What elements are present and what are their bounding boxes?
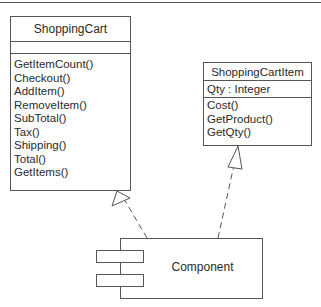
component-box[interactable]: Component (120, 238, 263, 299)
component-port-icon (96, 250, 144, 263)
class-box-shopping-cart[interactable]: ShoppingCart GetItemCount() Checkout() A… (10, 16, 131, 191)
hollow-triangle-arrowhead-icon (112, 191, 130, 206)
attributes-section (11, 42, 130, 54)
class-name: ShoppingCartItem (204, 65, 311, 79)
class-box-shopping-cart-item[interactable]: ShoppingCartItem Qty : Integer Cost() Ge… (203, 62, 312, 146)
attribute: Qty : Integer (204, 83, 311, 97)
method: GetItemCount() (11, 58, 130, 72)
class-name-section: ShoppingCartItem (204, 63, 311, 81)
method: Shipping() (11, 139, 130, 153)
method: RemoveItem() (11, 99, 130, 113)
method: GetItems() (11, 166, 130, 180)
attributes-section: Qty : Integer (204, 81, 311, 98)
method: Total() (11, 153, 130, 167)
component-port-icon (96, 274, 144, 287)
top-border-line (0, 2, 321, 3)
class-name: ShoppingCart (11, 22, 130, 36)
method: GetQty() (204, 126, 311, 140)
methods-section: GetItemCount() Checkout() AddItem() Remo… (11, 54, 130, 180)
method: SubTotal() (11, 112, 130, 126)
hollow-triangle-arrowhead-icon (228, 146, 242, 169)
dashed-realization-line-item (218, 165, 234, 238)
method: AddItem() (11, 85, 130, 99)
methods-section: Cost() GetProduct() GetQty() (204, 98, 311, 140)
class-name-section: ShoppingCart (11, 17, 130, 42)
method: Tax() (11, 126, 130, 140)
method: Cost() (204, 99, 311, 113)
dashed-realization-line-cart (124, 199, 147, 238)
method: Checkout() (11, 72, 130, 86)
method: GetProduct() (204, 113, 311, 127)
